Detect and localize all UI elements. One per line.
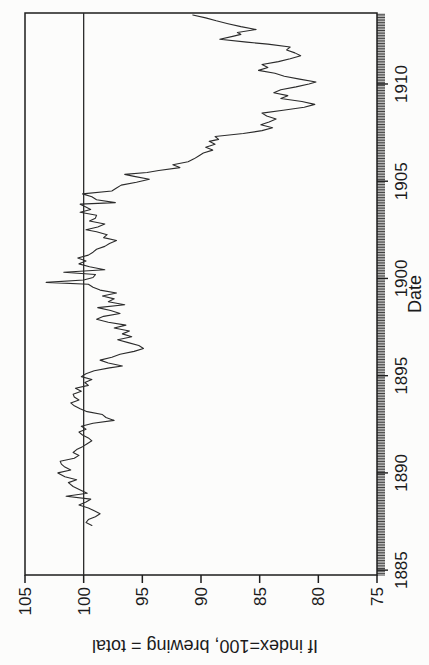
x-tick-label: 1905 bbox=[392, 162, 411, 200]
x-axis-title: Date bbox=[405, 275, 425, 313]
y-tick-label: 75 bbox=[368, 587, 387, 606]
line-chart: 7580859095100105188518901895190019051910… bbox=[0, 0, 429, 665]
x-tick-label: 1885 bbox=[392, 551, 411, 589]
x-tick-label: 1895 bbox=[392, 357, 411, 395]
y-tick-label: 95 bbox=[133, 587, 152, 606]
y-tick-label: 85 bbox=[251, 587, 270, 606]
plot-border bbox=[25, 13, 377, 575]
data-series-line bbox=[46, 15, 316, 525]
y-tick-label: 105 bbox=[16, 587, 35, 615]
x-tick-label: 1890 bbox=[392, 454, 411, 492]
y-tick-label: 90 bbox=[192, 587, 211, 606]
rotated-chart-container: 7580859095100105188518901895190019051910… bbox=[0, 0, 429, 665]
chart-generated-layer: 7580859095100105188518901895190019051910 bbox=[16, 13, 411, 615]
y-axis-title: If index=100, brewing = total bbox=[92, 636, 318, 656]
scanned-figure-page: 7580859095100105188518901895190019051910… bbox=[0, 0, 429, 665]
y-tick-label: 100 bbox=[75, 587, 94, 615]
y-tick-label: 80 bbox=[309, 587, 328, 606]
x-tick-label: 1910 bbox=[392, 65, 411, 103]
